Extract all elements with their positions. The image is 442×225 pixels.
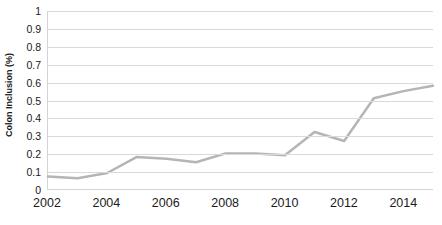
gridline [48, 47, 433, 48]
y-axis-tick-label: 0.1 [26, 166, 41, 178]
gridline [48, 190, 433, 191]
y-axis-tick-label: 0.7 [26, 59, 41, 71]
x-axis-tick-label: 2002 [33, 196, 61, 210]
gridline [48, 65, 433, 66]
plot-area [47, 11, 433, 190]
gridline [48, 154, 433, 155]
gridline [48, 29, 433, 30]
y-axis-tick-label: 0.6 [26, 77, 41, 89]
y-axis-title-label: Colon Inclusion (%) [4, 53, 14, 137]
y-axis-tick-label: 0.4 [26, 112, 41, 124]
x-axis-tick-label: 2010 [271, 196, 299, 210]
line-chart: Colon Inclusion (%) 00.10.20.30.40.50.60… [0, 0, 442, 225]
x-axis-tick-labels: 2002200420062008201020122014 [47, 196, 433, 218]
y-axis-tick-label: 0.3 [26, 130, 41, 142]
y-axis-tick-label: 0.2 [26, 148, 41, 160]
x-axis-tick-label: 2012 [330, 196, 358, 210]
x-axis-tick-label: 2004 [92, 196, 120, 210]
y-axis-tick-label: 0 [35, 184, 41, 196]
gridline [48, 101, 433, 102]
gridline [48, 136, 433, 137]
x-axis-tick-label: 2014 [389, 196, 417, 210]
gridline [48, 83, 433, 84]
y-axis-tick-label: 0.5 [26, 95, 41, 107]
y-axis-tick-label: 1 [35, 5, 41, 17]
gridline [48, 172, 433, 173]
x-axis-tick-label: 2008 [211, 196, 239, 210]
y-axis-tick-label: 0.8 [26, 41, 41, 53]
y-axis-tick-labels: 00.10.20.30.40.50.60.70.80.91 [16, 0, 44, 200]
y-axis-tick-label: 0.9 [26, 23, 41, 35]
gridline [48, 118, 433, 119]
x-axis-tick-label: 2006 [152, 196, 180, 210]
gridline [48, 11, 433, 12]
